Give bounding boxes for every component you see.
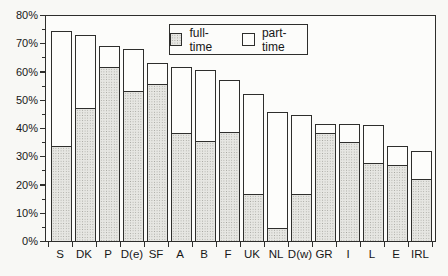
bar-NL-fulltime-segment — [268, 228, 287, 241]
bar-L — [363, 125, 384, 241]
x-axis-tick — [216, 242, 217, 247]
bar-NL — [267, 112, 288, 241]
legend-swatch-fulltime-icon — [170, 33, 182, 46]
y-axis-label: 30% — [0, 150, 38, 163]
x-axis-tick — [360, 242, 361, 247]
legend-item-parttime: part-time — [242, 26, 307, 54]
x-axis-tick — [240, 242, 241, 247]
y-major-tick — [40, 156, 45, 157]
x-axis-tick — [192, 242, 193, 247]
bar-P-fulltime-segment — [100, 67, 119, 241]
legend-label-fulltime: full-time — [189, 26, 229, 54]
bar-A — [171, 67, 192, 241]
bar-D(e) — [123, 49, 144, 241]
y-axis-label: 10% — [0, 207, 38, 220]
legend: full-time part-time — [169, 24, 308, 55]
x-axis-tick — [168, 242, 169, 247]
x-axis-tick — [384, 242, 385, 247]
y-major-tick — [40, 43, 45, 44]
bar-E — [387, 146, 408, 241]
bar-UK-fulltime-segment — [244, 194, 263, 241]
y-axis-label: 40% — [0, 122, 38, 135]
bar-S — [51, 31, 72, 241]
y-axis-label: 0% — [0, 235, 38, 248]
y-minor-tick — [42, 29, 45, 30]
x-axis-label-IRL: IRL — [403, 247, 437, 261]
legend-swatch-parttime-icon — [242, 33, 254, 46]
y-minor-tick — [42, 227, 45, 228]
bar-IRL — [411, 151, 432, 241]
y-major-tick — [40, 241, 45, 242]
y-minor-tick — [42, 86, 45, 87]
x-axis-tick — [336, 242, 337, 247]
bar-E-fulltime-segment — [388, 165, 407, 241]
bar-D(w)-fulltime-segment — [292, 194, 311, 241]
bar-F-fulltime-segment — [220, 132, 239, 241]
bar-A-fulltime-segment — [172, 133, 191, 241]
bar-IRL-fulltime-segment — [412, 179, 431, 241]
x-axis-tick — [120, 242, 121, 247]
x-axis-tick — [144, 242, 145, 247]
x-axis-tick — [96, 242, 97, 247]
bar-SF-fulltime-segment — [148, 84, 167, 241]
bar-D(e)-fulltime-segment — [124, 91, 143, 241]
bar-F — [219, 80, 240, 241]
bar-L-fulltime-segment — [364, 163, 383, 241]
bar-GR — [315, 124, 336, 241]
y-minor-tick — [42, 170, 45, 171]
legend-item-fulltime: full-time — [170, 26, 229, 54]
bar-I — [339, 124, 360, 241]
bar-DK — [75, 35, 96, 241]
y-minor-tick — [42, 57, 45, 58]
bar-I-fulltime-segment — [340, 142, 359, 241]
bar-UK — [243, 94, 264, 241]
y-axis-label: 50% — [0, 94, 38, 107]
y-minor-tick — [42, 114, 45, 115]
x-axis-tick — [288, 242, 289, 247]
x-axis-tick — [264, 242, 265, 247]
y-major-tick — [40, 184, 45, 185]
y-axis-label: 70% — [0, 37, 38, 50]
y-minor-tick — [42, 199, 45, 200]
bar-B-fulltime-segment — [196, 141, 215, 242]
bar-B — [195, 70, 216, 241]
chart-figure: 0%10%20%30%40%50%60%70%80% SDKPD(e)SFABF… — [0, 0, 448, 276]
y-axis-label: 80% — [0, 9, 38, 22]
legend-label-parttime: part-time — [262, 26, 307, 54]
bar-GR-fulltime-segment — [316, 133, 335, 241]
y-major-tick — [40, 213, 45, 214]
y-major-tick — [40, 71, 45, 72]
x-axis-tick — [312, 242, 313, 247]
y-major-tick — [40, 15, 45, 16]
y-major-tick — [40, 100, 45, 101]
x-axis-tick — [408, 242, 409, 247]
bar-SF — [147, 63, 168, 241]
x-axis-tick — [432, 242, 433, 247]
y-major-tick — [40, 128, 45, 129]
bar-D(w) — [291, 115, 312, 241]
y-minor-tick — [42, 142, 45, 143]
x-axis-tick — [72, 242, 73, 247]
bar-DK-fulltime-segment — [76, 108, 95, 241]
y-axis-label: 60% — [0, 66, 38, 79]
y-axis-label: 20% — [0, 179, 38, 192]
x-axis-tick — [48, 242, 49, 247]
bar-P — [99, 46, 120, 241]
bar-S-fulltime-segment — [52, 146, 71, 241]
